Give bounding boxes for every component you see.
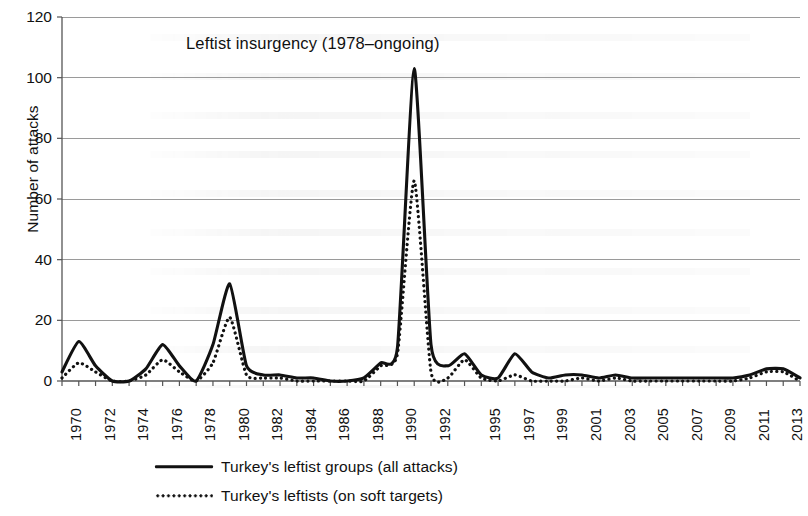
x-axis-tick-labels: 1970197219741976197819801982198419861988… [0,0,808,460]
dotted-line-swatch-icon [155,490,213,502]
solid-line-swatch-icon [155,461,213,473]
x-axis-tick-label: 2001 [588,408,604,441]
x-axis-tick-label: 1992 [437,408,453,441]
x-axis-tick-label: 2009 [722,408,738,441]
x-axis-tick-label: 1990 [403,408,419,441]
chart-figure: Number of attacks Leftist insurgency (19… [0,0,808,516]
x-axis-tick-label: 1976 [169,408,185,441]
x-axis-tick-label: 2013 [789,408,805,441]
x-axis-tick-label: 1980 [236,408,252,441]
x-axis-tick-label: 1970 [68,408,84,441]
legend-item-all-attacks: Turkey's leftist groups (all attacks) [0,452,808,481]
x-axis-tick-label: 1986 [336,408,352,441]
x-axis-tick-label: 1988 [370,408,386,441]
x-axis-tick-label: 1982 [269,408,285,441]
x-axis-tick-label: 1974 [135,408,151,441]
x-axis-tick-label: 1999 [554,408,570,441]
legend-item-soft-targets: Turkey's leftists (on soft targets) [0,481,808,510]
chart-legend: Turkey's leftist groups (all attacks) Tu… [0,452,808,510]
x-axis-tick-label: 1995 [487,408,503,441]
x-axis-tick-label: 2005 [655,408,671,441]
x-axis-tick-label: 2003 [622,408,638,441]
x-axis-tick-label: 1972 [102,408,118,441]
x-axis-tick-label: 2011 [756,409,772,441]
x-axis-tick-label: 1984 [303,408,319,441]
x-axis-tick-label: 1978 [202,408,218,441]
x-axis-tick-label: 2007 [689,408,705,441]
legend-item-label: Turkey's leftists (on soft targets) [221,487,443,505]
legend-item-label: Turkey's leftist groups (all attacks) [221,458,458,476]
x-axis-tick-label: 1997 [521,408,537,441]
